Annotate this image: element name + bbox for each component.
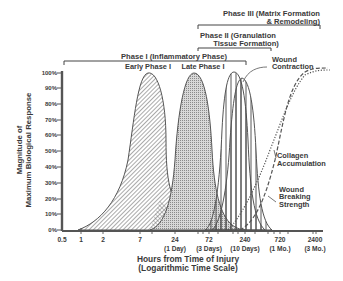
x-tick-label: 1 <box>79 236 83 243</box>
x-tick-label: 24 <box>171 236 179 243</box>
phase-1-label: Phase I (Inflammatory Phase) <box>121 52 227 61</box>
x-tick-sublabel: (3 Mo.) <box>304 245 325 253</box>
y-tick-label: 10% <box>45 211 58 217</box>
y-tick-label: 30% <box>45 180 58 186</box>
y-axis-label-2: Maximum Biological Response <box>24 92 33 207</box>
wound-contraction-annotation: Wound Contraction <box>243 55 314 82</box>
wound-healing-chart: Phase III (Matrix Formation & Remodeling… <box>0 0 343 281</box>
phase-3-bracket: Phase III (Matrix Formation & Remodeling… <box>198 9 320 29</box>
annotation-text: Accumulation <box>277 159 326 168</box>
y-tick-label: 70% <box>45 117 58 123</box>
y-tick-label: 50% <box>45 148 58 154</box>
y-tick-label: 0% <box>48 227 57 233</box>
late-phase-label: Late Phase I <box>181 62 224 71</box>
y-tick-label: 20% <box>45 196 58 202</box>
x-tick-label: 7 <box>138 236 142 243</box>
breaking-strength-annotation: Wound Breaking Strength <box>268 185 311 209</box>
x-tick-label: 0.5 <box>57 236 66 243</box>
y-axis-label: Magnitude of <box>15 125 24 174</box>
x-tick-label: 720 <box>274 236 285 243</box>
x-tick-label: 2 <box>101 236 105 243</box>
x-tick-sublabel: (10 Days) <box>230 245 259 253</box>
y-ticks: 0% 10% 20% 30% 40% 50% 60% 70% 80% 90% 1… <box>42 70 62 233</box>
y-axis-title: Magnitude of Maximum Biological Response <box>15 92 33 207</box>
x-tick-label: 240 <box>239 236 250 243</box>
y-tick-label: 100% <box>42 70 58 76</box>
x-tick-sublabel: (1 Day) <box>164 245 186 253</box>
early-phase-label: Early Phase I <box>125 62 171 71</box>
x-tick-label: 72 <box>205 236 213 243</box>
x-axis-title: Hours from Time of Injury (Logarithmic T… <box>137 254 240 273</box>
x-axis-label-2: (Logarithmic Time Scale) <box>138 263 238 273</box>
annotation-text: Strength <box>279 200 310 209</box>
x-tick-label: 2400 <box>308 236 323 243</box>
phase-1-bracket: Phase I (Inflammatory Phase) Early Phase… <box>64 52 246 71</box>
phase-2-label-2: Tissue Formation) <box>213 39 279 48</box>
x-tick-sublabel: (3 Days) <box>196 245 222 253</box>
y-tick-label: 90% <box>45 85 58 91</box>
collagen-annotation: Collagen Accumulation <box>274 150 326 168</box>
y-tick-label: 60% <box>45 132 58 138</box>
phase-2-bracket: Phase II (Granulation Tissue Formation) <box>198 31 279 51</box>
y-tick-label: 40% <box>45 164 58 170</box>
x-ticks: 0.5 1 2 7 24 72 240 720 2400 (1 Day) (3 … <box>57 236 325 253</box>
annotation-text: Contraction <box>272 62 314 71</box>
x-tick-sublabel: (1 Mo.) <box>269 245 290 253</box>
y-tick-label: 80% <box>45 101 58 107</box>
